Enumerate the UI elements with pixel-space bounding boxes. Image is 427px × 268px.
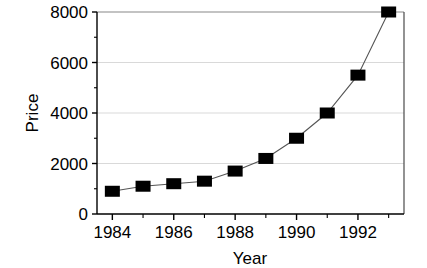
x-tick-label-1992: 1992 bbox=[339, 223, 377, 242]
y-tick-label-8000: 8000 bbox=[50, 3, 88, 22]
data-point-1987: 1987: 1300 bbox=[197, 176, 212, 187]
data-point-1990: 1990: 3000 bbox=[289, 133, 304, 144]
chart-container: 02000400060008000 19841986198819901992 1… bbox=[0, 0, 427, 268]
data-point-1992: 1992: 5500 bbox=[350, 70, 365, 81]
x-tick-label-1984: 1984 bbox=[93, 223, 131, 242]
price-vs-year-line-chart: 02000400060008000 19841986198819901992 1… bbox=[0, 0, 427, 268]
y-tick-label-6000: 6000 bbox=[50, 54, 88, 73]
x-tick-label-1988: 1988 bbox=[216, 223, 254, 242]
y-axis-title: Price bbox=[23, 94, 42, 133]
data-point-1991: 1991: 4000 bbox=[320, 108, 335, 119]
x-tick-label-1986: 1986 bbox=[155, 223, 193, 242]
y-tick-label-4000: 4000 bbox=[50, 104, 88, 123]
x-axis-title: Year bbox=[233, 249, 268, 268]
data-point-1986: 1986: 1200 bbox=[166, 178, 181, 189]
data-point-1985: 1985: 1100 bbox=[136, 181, 151, 192]
y-tick-label-2000: 2000 bbox=[50, 155, 88, 174]
data-point-1984: 1984: 900 bbox=[105, 186, 120, 197]
y-tick-label-0: 0 bbox=[79, 205, 88, 224]
x-tick-label-1990: 1990 bbox=[278, 223, 316, 242]
data-point-1989: 1989: 2200 bbox=[258, 153, 273, 164]
data-point-1993: 1993: 8000 bbox=[381, 7, 396, 18]
data-point-1988: 1988: 1700 bbox=[228, 166, 243, 177]
